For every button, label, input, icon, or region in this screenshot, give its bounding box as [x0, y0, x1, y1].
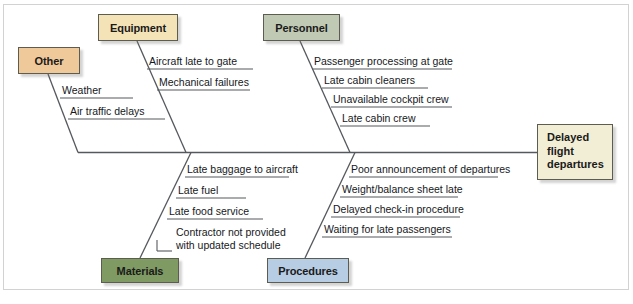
- category-box-personnel[interactable]: Personnel: [263, 14, 340, 41]
- category-box-procedures[interactable]: Procedures: [267, 258, 349, 283]
- cause-label: Unavailable cockpit crew: [333, 93, 449, 105]
- cause-label-line2: with updated schedule: [176, 239, 286, 252]
- cause-label: Waiting for late passengers: [324, 223, 451, 235]
- effect-label-line2: flight: [547, 145, 612, 159]
- cause-label: Late food service: [169, 205, 249, 217]
- effect-label-line1: Delayed: [547, 131, 612, 145]
- category-box-materials[interactable]: Materials: [101, 258, 179, 283]
- category-label-equipment: Equipment: [110, 22, 166, 34]
- effect-label-line3: departures: [547, 158, 612, 172]
- cause-label: Late baggage to aircraft: [187, 163, 298, 175]
- category-label-other: Other: [35, 55, 64, 67]
- category-box-equipment[interactable]: Equipment: [98, 14, 178, 41]
- cause-label: Late cabin crew: [342, 112, 416, 124]
- fishbone-diagram: Other Equipment Personnel Materials Proc…: [0, 0, 633, 304]
- cause-label: Aircraft late to gate: [149, 55, 237, 67]
- category-label-procedures: Procedures: [278, 265, 338, 277]
- cause-label: Late fuel: [178, 184, 218, 196]
- cause-label: Weather: [62, 84, 102, 96]
- cause-label: Passenger processing at gate: [314, 55, 453, 67]
- cause-label: Late cabin cleaners: [324, 74, 415, 86]
- category-label-materials: Materials: [117, 265, 164, 277]
- cause-label-line1: Contractor not provided: [176, 226, 286, 239]
- effect-box[interactable]: Delayed flight departures: [537, 124, 613, 180]
- cause-label: Delayed check-in procedure: [333, 203, 464, 215]
- cause-label: Weight/balance sheet late: [342, 183, 463, 195]
- cause-label: Poor announcement of departures: [351, 163, 510, 175]
- cause-label: Air traffic delays: [70, 105, 145, 117]
- category-label-personnel: Personnel: [275, 22, 327, 34]
- category-box-other[interactable]: Other: [18, 47, 80, 74]
- cause-label: Mechanical failures: [159, 76, 249, 88]
- cause-label: Contractor not provided with updated sch…: [176, 226, 286, 252]
